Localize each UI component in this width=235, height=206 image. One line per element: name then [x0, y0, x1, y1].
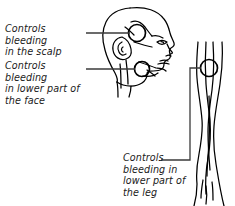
upper-lip	[160, 60, 168, 61]
leader-lines	[86, 33, 201, 160]
facial-pressure-point-marker	[135, 62, 150, 77]
leader-line-leg	[161, 68, 201, 160]
leg-outer-right	[214, 42, 224, 206]
callout-label-leg: Controls bleeding in lower part of the l…	[123, 152, 193, 198]
neck-front	[129, 86, 131, 97]
hairline	[131, 21, 152, 36]
head-profile-illustration	[103, 8, 174, 97]
neck-muscle	[126, 60, 128, 84]
popliteal-pressure-point-marker	[201, 60, 218, 77]
ear-inner-2	[122, 47, 124, 52]
neck-back	[117, 82, 118, 97]
brow-ridge	[152, 36, 163, 38]
leg-illustration	[194, 42, 224, 206]
pressure-points-figure: Controls bleeding in the scalp Controls …	[0, 0, 235, 206]
ankle-detail-left	[201, 180, 203, 198]
skull-outline	[117, 8, 174, 86]
skull-back-outline	[103, 8, 130, 82]
nostril	[166, 55, 171, 56]
ankle-detail-right	[212, 182, 213, 200]
eye-pupil	[161, 42, 164, 44]
temporal-pressure-point-marker	[129, 25, 146, 42]
pressure-point-markers	[129, 25, 218, 77]
callout-label-face: Controls bleeding in lower part of the f…	[5, 60, 89, 106]
cheek-line	[134, 42, 152, 47]
heel-line	[206, 186, 207, 204]
callout-label-scalp: Controls bleeding in the scalp	[5, 23, 89, 58]
